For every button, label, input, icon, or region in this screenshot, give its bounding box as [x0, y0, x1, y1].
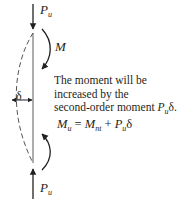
- load-symbol: P: [40, 180, 48, 195]
- formula-equals: =: [71, 117, 84, 131]
- deflection-label: δ: [16, 89, 22, 104]
- note-term-suffix: δ.: [169, 101, 177, 113]
- note-line-2: increased by the: [54, 88, 177, 102]
- load-subscript: u: [48, 10, 52, 19]
- formula-plus: +: [101, 117, 114, 131]
- moment-label: M: [55, 40, 66, 53]
- load-symbol: P: [40, 2, 48, 17]
- note-line-1: The moment will be: [54, 74, 177, 88]
- top-moment-arrow: [42, 29, 50, 69]
- note-term-symbol: P: [157, 101, 164, 113]
- top-load-label: Pu: [40, 3, 52, 19]
- explanation-note: The moment will be increased by the seco…: [54, 74, 177, 119]
- note-line-3-text: second-order moment: [54, 101, 157, 113]
- bottom-load-label: Pu: [40, 181, 52, 197]
- moment-formula: Mu = Mnt + Puδ: [57, 117, 132, 133]
- formula-term1: M: [85, 117, 95, 131]
- bottom-moment-arrow: [42, 134, 50, 170]
- note-line-3: second-order moment Puδ.: [54, 101, 177, 119]
- load-subscript: u: [48, 188, 52, 197]
- formula-lhs: M: [57, 117, 67, 131]
- formula-term2-suffix: δ: [126, 117, 132, 131]
